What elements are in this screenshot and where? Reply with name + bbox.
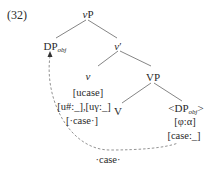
node-V: V: [114, 105, 122, 117]
node-v-bar: v′: [114, 40, 121, 52]
tree-branches: [0, 0, 214, 169]
node-dp-obj-copy: <DPobj>: [168, 102, 203, 114]
node-vP: vP: [82, 8, 93, 20]
feature-case-unvalued: [case:_]: [167, 130, 200, 142]
feature-ucase: [ucase]: [73, 87, 103, 99]
movement-label: ·case·: [95, 154, 120, 166]
example-number: (32): [7, 8, 27, 23]
feature-case-probe: [·case·]: [66, 115, 98, 127]
feature-u-num-gamma: [u#:_],[uγ:_]: [57, 101, 110, 113]
node-dp-obj: DPobj: [43, 40, 66, 52]
feature-phi: [φ:α]: [174, 116, 195, 128]
node-v: v: [86, 70, 91, 82]
node-VP: VP: [146, 71, 160, 83]
